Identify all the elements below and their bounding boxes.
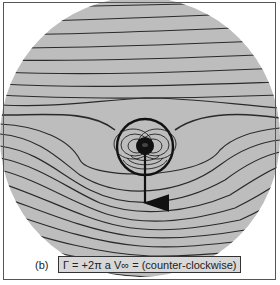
panel-label: (b) bbox=[35, 259, 48, 271]
figure-panel: (b) Γ = +2π a V∞ = (counter-clockwise) bbox=[0, 0, 280, 285]
figure-frame bbox=[3, 2, 276, 280]
circulation-caption: Γ = +2π a V∞ = (counter-clockwise) bbox=[58, 256, 241, 273]
